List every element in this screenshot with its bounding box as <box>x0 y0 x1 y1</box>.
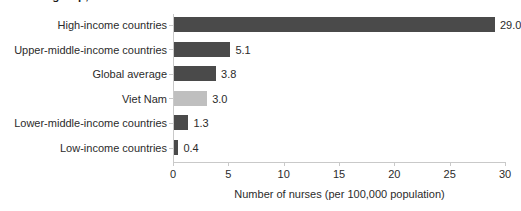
x-axis-tick-label: 5 <box>225 169 231 180</box>
category-label: Low-income countries <box>60 143 167 154</box>
bar <box>174 91 207 106</box>
x-axis-tick <box>284 162 285 166</box>
y-axis-tick <box>169 148 173 149</box>
category-label: Viet Nam <box>122 94 167 105</box>
y-axis-tick <box>169 25 173 26</box>
x-axis-tick-label: 15 <box>333 169 345 180</box>
bar-value-label: 3.0 <box>212 94 227 105</box>
bar-chart: income group, 2021 High-income countries… <box>0 0 521 211</box>
bar <box>174 42 230 57</box>
chart-title: income group, 2021 <box>8 0 118 2</box>
x-axis-tick-label: 25 <box>444 169 456 180</box>
bar <box>174 115 188 130</box>
y-axis-tick <box>169 123 173 124</box>
y-axis-tick <box>169 49 173 50</box>
x-axis-tick-label: 0 <box>170 169 176 180</box>
category-label: High-income countries <box>58 20 167 31</box>
x-axis-tick-label: 10 <box>278 169 290 180</box>
x-axis-tick <box>505 162 506 166</box>
x-axis-tick <box>394 162 395 166</box>
x-axis-tick <box>339 162 340 166</box>
x-axis-title: Number of nurses (per 100,000 population… <box>173 189 506 200</box>
bar-value-label: 5.1 <box>235 45 250 56</box>
x-axis-tick <box>450 162 451 166</box>
bar-value-label: 1.3 <box>193 118 208 129</box>
category-label: Upper-middle-income countries <box>14 45 167 56</box>
x-axis-tick <box>228 162 229 166</box>
bar-value-label: 3.8 <box>221 69 236 80</box>
y-axis-tick <box>169 74 173 75</box>
x-axis-tick-label: 30 <box>499 169 511 180</box>
x-axis-tick-label: 20 <box>388 169 400 180</box>
plot-area: 29.05.13.83.01.30.4 <box>173 14 505 162</box>
bar <box>174 17 495 32</box>
bar <box>174 66 216 81</box>
category-axis-labels: High-income countriesUpper-middle-income… <box>0 14 167 162</box>
x-axis-tick <box>173 162 174 166</box>
bar <box>174 140 178 155</box>
y-axis-tick <box>169 98 173 99</box>
category-label: Global average <box>92 69 167 80</box>
bar-value-label: 0.4 <box>183 143 198 154</box>
category-label: Lower-middle-income countries <box>14 118 167 129</box>
bar-value-label: 29.0 <box>500 20 521 31</box>
